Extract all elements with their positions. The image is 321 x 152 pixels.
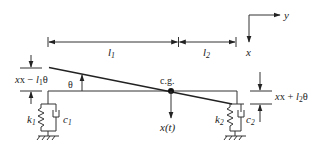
- dimension-lines: l1 l2: [48, 37, 236, 60]
- y-axis-label: y: [283, 9, 289, 21]
- right-deflection-dimension: xx + l2θ: [250, 72, 308, 122]
- body: c.g. x(t): [48, 68, 237, 135]
- k2-label: k2: [215, 113, 224, 127]
- tilted-body-bar: [49, 68, 232, 105]
- right-spring-icon: [227, 104, 233, 131]
- x-axis-label: x: [245, 46, 251, 58]
- c2-label: c2: [246, 113, 255, 127]
- left-spring-icon: [38, 104, 44, 131]
- right-deflection-label: xx + l2θ: [274, 91, 308, 104]
- cg-label: c.g.: [160, 75, 174, 86]
- equilibrium-reference-line: [48, 91, 237, 104]
- theta-label: θ: [68, 79, 73, 90]
- left-deflection-label: xx − l1θ: [14, 74, 48, 87]
- l1-label: l1: [108, 46, 115, 60]
- k1-label: k1: [27, 113, 36, 127]
- vehicle-model-diagram: y x l1 l2 c.g. x(t) θ xx − l1θ: [0, 0, 321, 152]
- theta-indicator: θ: [68, 75, 82, 91]
- displacement-label: x(t): [159, 121, 176, 134]
- left-deflection-dimension: xx − l1θ: [14, 55, 48, 104]
- left-suspension: k1 c1: [27, 104, 72, 140]
- l2-label: l2: [203, 46, 210, 60]
- coordinate-axes: y x: [245, 9, 289, 58]
- right-suspension: k2 c2: [215, 104, 255, 140]
- c1-label: c1: [63, 113, 72, 127]
